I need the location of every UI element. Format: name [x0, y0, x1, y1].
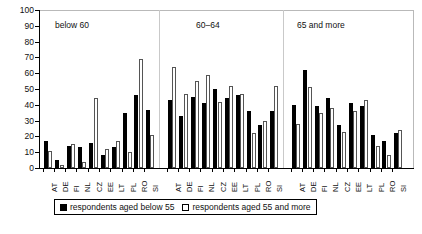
- bar-55-and-more: [48, 151, 52, 168]
- bar-55-and-more: [116, 141, 120, 168]
- x-axis-tick-mark: [144, 169, 145, 172]
- y-axis-tick-mark: [35, 136, 39, 137]
- x-axis-tick-mark: [99, 169, 100, 172]
- x-axis-tick-mark: [189, 169, 190, 172]
- y-axis-tick-mark: [35, 89, 39, 90]
- x-axis-tick-label: CZ: [344, 182, 352, 192]
- bar-55-and-more: [105, 149, 109, 168]
- x-axis-tick-label: EE: [107, 182, 115, 192]
- x-axis-tick-label: RO: [141, 181, 149, 192]
- x-axis-tick-mark: [178, 169, 179, 172]
- y-axis-tick-label: 100: [12, 6, 34, 15]
- x-axis-tick-label: LT: [118, 184, 126, 192]
- x-axis-tick-label: LT: [366, 184, 374, 192]
- bar-55-and-more: [206, 75, 210, 168]
- y-axis-tick-label: 10: [12, 148, 34, 157]
- x-axis-tick-label: FI: [321, 185, 329, 192]
- bar-55-and-more: [195, 81, 199, 168]
- panel-separator: [159, 10, 160, 168]
- x-axis-tick-label: SI: [276, 185, 284, 192]
- y-axis-tick-mark: [35, 105, 39, 106]
- y-axis-tick-mark: [35, 57, 39, 58]
- x-axis-tick-mark: [223, 169, 224, 172]
- x-axis-tick-label: DE: [62, 182, 70, 192]
- bar-55-and-more: [60, 165, 64, 168]
- x-axis-tick-mark: [122, 169, 123, 172]
- x-axis-tick-mark: [324, 169, 325, 172]
- bar-below-55: [394, 133, 398, 168]
- x-axis-tick-mark: [200, 169, 201, 172]
- y-axis-tick-mark: [35, 26, 39, 27]
- x-axis-tick-label: SI: [400, 185, 408, 192]
- x-axis-tick-mark: [336, 169, 337, 172]
- x-axis-tick-label: AT: [299, 183, 307, 192]
- x-axis-tick-mark: [88, 169, 89, 172]
- x-axis-tick-label: CZ: [96, 182, 104, 192]
- x-axis-tick-mark: [43, 169, 44, 172]
- y-axis-tick-mark: [35, 73, 39, 74]
- legend-swatch-white: [182, 204, 189, 211]
- bar-55-and-more: [240, 94, 244, 168]
- bar-55-and-more: [342, 132, 346, 168]
- bar-below-55: [360, 106, 364, 168]
- bar-below-55: [55, 160, 59, 168]
- legend-label: respondents aged 55 and more: [192, 203, 310, 212]
- bar-55-and-more: [296, 124, 300, 168]
- bar-55-and-more: [252, 133, 256, 168]
- y-axis-tick-mark: [35, 42, 39, 43]
- y-axis-tick-mark: [35, 121, 39, 122]
- x-axis-tick-label: PL: [254, 183, 262, 192]
- legend-swatch-black: [60, 204, 67, 211]
- y-axis-tick-label: 90: [12, 22, 34, 31]
- x-axis-tick-mark: [381, 169, 382, 172]
- bar-below-55: [337, 125, 341, 168]
- x-axis-tick-mark: [54, 169, 55, 172]
- x-axis-tick-label: AT: [175, 183, 183, 192]
- x-axis-tick-mark: [133, 169, 134, 172]
- x-axis-tick-mark: [358, 169, 359, 172]
- x-axis-tick-mark: [313, 169, 314, 172]
- y-axis-tick-label: 50: [12, 85, 34, 94]
- legend-item: respondents aged below 55: [60, 203, 174, 212]
- bar-below-55: [213, 89, 217, 168]
- x-axis-tick-mark: [302, 169, 303, 172]
- x-axis-tick-label: NL: [332, 182, 340, 192]
- x-axis-tick-label: EE: [355, 182, 363, 192]
- x-axis-tick-label: DE: [186, 182, 194, 192]
- bar-55-and-more: [319, 113, 323, 168]
- bar-55-and-more: [308, 87, 312, 168]
- bar-below-55: [191, 97, 195, 168]
- bar-55-and-more: [274, 86, 278, 168]
- y-axis-tick-mark: [35, 152, 39, 153]
- panel-separator: [283, 10, 284, 168]
- legend-label: respondents aged below 55: [70, 203, 174, 212]
- bar-55-and-more: [364, 100, 368, 168]
- bar-below-55: [101, 155, 105, 168]
- panel-title: 65 and more: [297, 20, 345, 30]
- panel-title: 60–64: [196, 20, 220, 30]
- x-axis-tick-mark: [76, 169, 77, 172]
- x-axis-tick-mark: [246, 169, 247, 172]
- x-axis-tick-mark: [110, 169, 111, 172]
- bar-chart: 0102030405060708090100 below 6060–6465 a…: [0, 0, 422, 234]
- bar-below-55: [123, 113, 127, 168]
- y-axis-tick-mark: [35, 168, 39, 169]
- bar-55-and-more: [229, 86, 233, 168]
- x-axis-tick-label: RO: [389, 181, 397, 192]
- x-axis-tick-label: FI: [73, 185, 81, 192]
- x-axis-tick-mark: [212, 169, 213, 172]
- bar-55-and-more: [139, 59, 143, 168]
- bar-below-55: [225, 98, 229, 168]
- bar-55-and-more: [263, 121, 267, 168]
- bar-below-55: [202, 103, 206, 168]
- bar-below-55: [270, 111, 274, 168]
- y-axis-tick-label: 0: [12, 164, 34, 173]
- bar-55-and-more: [82, 162, 86, 168]
- bar-below-55: [78, 147, 82, 168]
- y-axis-tick-label: 60: [12, 69, 34, 78]
- x-axis-tick-label: LT: [242, 184, 250, 192]
- bar-55-and-more: [128, 152, 132, 168]
- x-axis-tick-label: PL: [378, 183, 386, 192]
- bar-55-and-more: [94, 98, 98, 168]
- bar-below-55: [292, 105, 296, 168]
